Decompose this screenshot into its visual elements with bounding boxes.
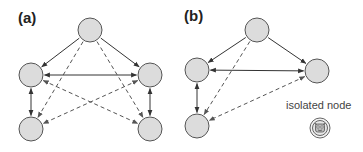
- edges-layer: [31, 37, 306, 123]
- node-a-top: [78, 18, 102, 42]
- edge-b-top-left-mid: [208, 37, 246, 62]
- node-b-top: [245, 18, 269, 42]
- node-a-right-bottom: [138, 117, 162, 141]
- edge-b-top-right-mid: [268, 38, 306, 64]
- edge-b-top-left-bottom: [204, 41, 250, 114]
- nodes-layer: [19, 18, 329, 141]
- network-diagram: [0, 0, 363, 152]
- node-b-right-mid: [305, 59, 329, 83]
- node-a-left-mid: [19, 63, 43, 87]
- face-icon: [314, 123, 325, 132]
- edge-a-top-right-mid: [101, 38, 139, 67]
- node-a-left-bottom: [19, 117, 43, 141]
- edge-b-left-mid-right-mid: [210, 70, 303, 71]
- node-b-left-bottom: [185, 114, 209, 138]
- isolated-node: [310, 118, 330, 138]
- node-b-left-mid: [185, 58, 209, 82]
- edge-a-top-left-mid: [42, 38, 80, 67]
- node-a-right-mid: [138, 63, 162, 87]
